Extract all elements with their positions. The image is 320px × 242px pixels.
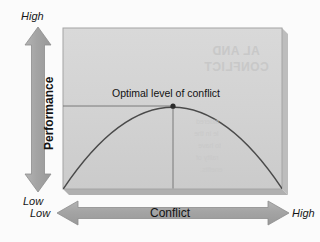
bleed-body-line1: sidered (196, 118, 219, 125)
x-axis-title: Conflict (150, 207, 190, 219)
bleed-body-line3: to have (198, 142, 221, 149)
optimal-point-marker (170, 104, 175, 109)
y-axis-low-label: Low (23, 196, 43, 207)
bleed-body-line5: enefits. (200, 166, 223, 173)
x-axis-low-label: Low (30, 208, 50, 219)
x-axis-high-label: High (292, 208, 315, 219)
bleed-heading-line2: CONFLICT (204, 60, 269, 74)
y-axis-high-label: High (21, 11, 44, 22)
y-axis-title: Performance (43, 77, 55, 150)
bleed-heading-line1: AL AND (212, 44, 260, 58)
optimal-level-callout: Optimal level of conflict (112, 88, 220, 99)
bleed-body-line2: le in the (194, 130, 219, 137)
conflict-performance-figure: AL AND CONFLICT sidered le in the to hav… (0, 0, 320, 242)
bleed-body-line4: rality of (196, 154, 219, 161)
